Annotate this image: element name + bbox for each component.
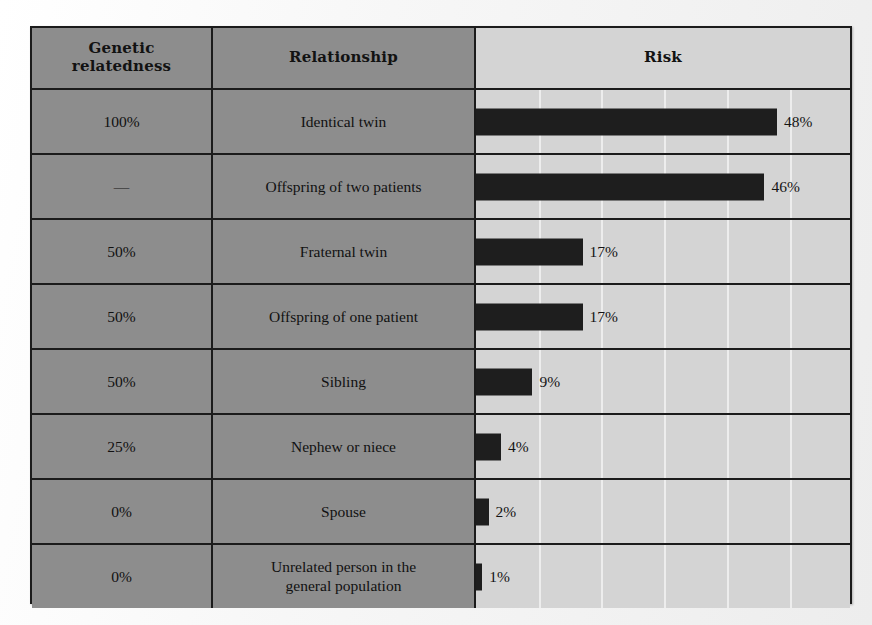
risk-bar-value-label: 9% [539, 373, 560, 390]
cell-relationship: Nephew or niece [212, 414, 475, 479]
cell-relationship: Spouse [212, 479, 475, 544]
bar-with-label: 48% [476, 108, 812, 135]
risk-bar-value-label: 46% [771, 178, 799, 195]
risk-table-container: Genetic relatedness Relationship Risk 10… [30, 26, 852, 604]
cell-genetic-relatedness: 100% [32, 89, 212, 154]
gridline [664, 545, 666, 608]
table-row: 50%Sibling9% [32, 349, 850, 414]
gridlines [476, 480, 850, 543]
gridline [727, 220, 729, 283]
gridline [727, 350, 729, 413]
cell-genetic-relatedness: 50% [32, 349, 212, 414]
risk-bar [476, 108, 777, 135]
bar-track: 9% [476, 350, 850, 413]
cell-relationship: Sibling [212, 349, 475, 414]
risk-bar [476, 498, 489, 525]
gridline [790, 285, 792, 348]
gridline [601, 350, 603, 413]
bar-track: 4% [476, 415, 850, 478]
cell-risk-bar: 1% [475, 544, 850, 608]
bar-track: 46% [476, 155, 850, 218]
cell-genetic-relatedness: 50% [32, 284, 212, 349]
gridlines [476, 415, 850, 478]
cell-genetic-relatedness: 50% [32, 219, 212, 284]
gridline [727, 545, 729, 608]
risk-bar-value-label: 1% [489, 568, 510, 585]
bar-with-label: 17% [476, 303, 618, 330]
gridline [539, 415, 541, 478]
risk-bar [476, 563, 482, 590]
cell-risk-bar: 2% [475, 479, 850, 544]
gridline [664, 415, 666, 478]
header-row: Genetic relatedness Relationship Risk [32, 28, 850, 89]
cell-relationship: Offspring of two patients [212, 154, 475, 219]
table-row: 25%Nephew or niece4% [32, 414, 850, 479]
cell-relationship: Offspring of one patient [212, 284, 475, 349]
table-row: 50%Offspring of one patient17% [32, 284, 850, 349]
risk-bar [476, 368, 532, 395]
risk-table: Genetic relatedness Relationship Risk 10… [32, 28, 850, 608]
gridline [664, 285, 666, 348]
gridline [790, 480, 792, 543]
bar-with-label: 17% [476, 238, 618, 265]
cell-genetic-relatedness: 0% [32, 479, 212, 544]
table-row: —Offspring of two patients46% [32, 154, 850, 219]
header-line-2: relatedness [72, 57, 171, 75]
gridline [539, 480, 541, 543]
cell-risk-bar: 4% [475, 414, 850, 479]
relationship-line-1: Unrelated person in the [221, 558, 466, 577]
risk-bar-value-label: 17% [590, 243, 618, 260]
table-row: 0%Spouse2% [32, 479, 850, 544]
table-header: Genetic relatedness Relationship Risk [32, 28, 850, 89]
cell-relationship: Identical twin [212, 89, 475, 154]
gridlines [476, 545, 850, 608]
gridline [539, 545, 541, 608]
cell-relationship: Unrelated person in thegeneral populatio… [212, 544, 475, 608]
risk-bar-value-label: 2% [496, 503, 517, 520]
gridline [790, 220, 792, 283]
gridline [790, 350, 792, 413]
table-row: 50%Fraternal twin17% [32, 219, 850, 284]
table-body: 100%Identical twin48%—Offspring of two p… [32, 89, 850, 608]
gridline [601, 415, 603, 478]
bar-track: 17% [476, 285, 850, 348]
cell-risk-bar: 48% [475, 89, 850, 154]
column-header-risk: Risk [475, 28, 850, 89]
gridline [790, 415, 792, 478]
cell-risk-bar: 17% [475, 284, 850, 349]
page-background: Genetic relatedness Relationship Risk 10… [0, 0, 872, 625]
column-header-relationship: Relationship [212, 28, 475, 89]
bar-with-label: 46% [476, 173, 800, 200]
bar-with-label: 1% [476, 563, 510, 590]
risk-bar [476, 238, 583, 265]
cell-relationship: Fraternal twin [212, 219, 475, 284]
bar-track: 1% [476, 545, 850, 608]
risk-bar-value-label: 48% [784, 113, 812, 130]
risk-bar [476, 433, 501, 460]
gridline [664, 350, 666, 413]
column-header-genetic-relatedness: Genetic relatedness [32, 28, 212, 89]
cell-genetic-relatedness: — [32, 154, 212, 219]
bar-with-label: 4% [476, 433, 529, 460]
table-row: 100%Identical twin48% [32, 89, 850, 154]
risk-bar [476, 173, 764, 200]
gridline [727, 415, 729, 478]
cell-risk-bar: 9% [475, 349, 850, 414]
relationship-line-2: general population [221, 577, 466, 596]
bar-with-label: 2% [476, 498, 516, 525]
bar-with-label: 9% [476, 368, 560, 395]
header-line-1: Genetic [89, 39, 155, 57]
gridline [664, 220, 666, 283]
gridline [601, 545, 603, 608]
gridline [727, 480, 729, 543]
risk-bar [476, 303, 583, 330]
cell-risk-bar: 17% [475, 219, 850, 284]
table-row: 0%Unrelated person in thegeneral populat… [32, 544, 850, 608]
gridline [790, 545, 792, 608]
bar-track: 17% [476, 220, 850, 283]
risk-bar-value-label: 17% [590, 308, 618, 325]
gridline [664, 480, 666, 543]
cell-risk-bar: 46% [475, 154, 850, 219]
cell-genetic-relatedness: 0% [32, 544, 212, 608]
risk-bar-value-label: 4% [508, 438, 529, 455]
